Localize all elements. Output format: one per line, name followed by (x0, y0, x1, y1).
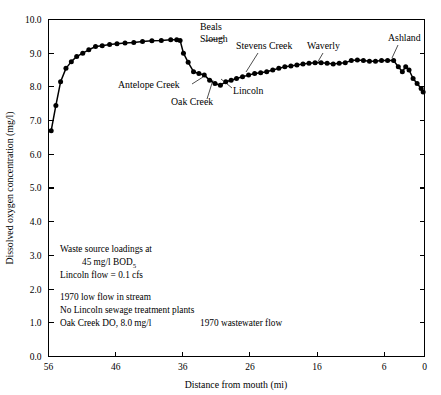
data-point-marker (361, 58, 366, 63)
data-point-marker (258, 70, 263, 75)
data-point-marker (49, 128, 54, 133)
chart-annotations: BealsSloughAntelope CreekOak CreekLincol… (118, 21, 421, 107)
data-point-marker (367, 59, 372, 64)
data-point-marker (159, 38, 164, 43)
annotation-label: Ashland (388, 32, 421, 43)
data-point-marker (294, 63, 299, 68)
y-tick-label: 5.0 (30, 183, 42, 193)
data-point-marker (63, 66, 68, 71)
data-point-marker (355, 57, 360, 62)
data-point-marker (86, 47, 91, 52)
data-point-marker (319, 60, 324, 65)
chart-canvas: 0.01.02.03.04.05.06.07.08.09.010.0 56463… (0, 0, 441, 395)
data-point-marker (114, 41, 119, 46)
note-wastewater-flow: 1970 wastewater flow (200, 318, 282, 328)
data-point-marker (282, 64, 287, 69)
annotation-label-line: Antelope Creek (118, 79, 180, 90)
y-tick-label: 3.0 (30, 251, 42, 261)
y-tick-label: 4.0 (30, 217, 42, 227)
data-point-marker (100, 43, 105, 48)
data-point-marker (107, 42, 112, 47)
data-point-marker (252, 71, 257, 76)
data-point-marker (246, 73, 251, 78)
x-axis-title: Distance from mouth (mi) (185, 379, 288, 391)
data-point-marker (93, 44, 98, 49)
annotation-label-line: Stevens Creek (236, 40, 292, 51)
y-tick-label: 7.0 (30, 116, 42, 126)
note-no-sewage-plants: No Lincoln sewage treatment plants (60, 305, 195, 315)
data-point-marker (240, 74, 245, 79)
data-point-marker (74, 54, 79, 59)
y-axis-title: Dissolved oxygen concentration (mg/l) (4, 111, 16, 264)
data-point-marker (391, 58, 396, 63)
data-point-marker (229, 78, 234, 83)
x-tick-label: 16 (312, 362, 322, 372)
data-point-marker (396, 64, 401, 69)
data-point-marker (300, 61, 305, 66)
annotation-label-line: Ashland (388, 32, 421, 43)
annotation-label: BealsSlough (200, 21, 228, 44)
x-tick-label: 36 (178, 362, 188, 372)
annotation-label: Oak Creek (171, 96, 213, 107)
x-tick-label: 6 (382, 362, 387, 372)
data-point-marker (288, 64, 293, 69)
data-point-marker (58, 79, 63, 84)
data-point-marker (415, 81, 420, 86)
y-tick-label: 0.0 (30, 352, 42, 362)
data-point-marker (313, 60, 318, 65)
dissolved-oxygen-chart-figure: 0.01.02.03.04.05.06.07.08.09.010.0 56463… (0, 0, 441, 395)
x-tick-label: 46 (111, 362, 121, 372)
y-tick-label: 9.0 (30, 49, 42, 59)
data-point-marker (407, 68, 412, 73)
annotation-label: Lincoln (233, 85, 264, 96)
data-point-marker (202, 73, 207, 78)
annotation-leader-line (192, 77, 203, 84)
note-lincoln-flow: Lincoln flow = 0.1 cfs (60, 270, 143, 280)
annotation-leader-line (392, 45, 398, 58)
data-point-marker (349, 58, 354, 63)
y-tick-label: 8.0 (30, 82, 42, 92)
data-point-marker (207, 78, 212, 83)
data-point-marker (178, 38, 183, 43)
data-point-marker (307, 61, 312, 66)
x-tick-label: 26 (245, 362, 255, 372)
data-point-marker (385, 58, 390, 63)
data-point-marker (276, 66, 281, 71)
data-point-marker (181, 51, 186, 56)
note-oak-creek-do: Oak Creek DO, 8.0 mg/l (60, 318, 152, 328)
data-point-marker (191, 69, 196, 74)
data-point-marker (337, 61, 342, 66)
annotation-label: Antelope Creek (118, 79, 180, 90)
data-point-marker (325, 61, 330, 66)
note-waste-source-loadings: Waste source loadings at (60, 244, 152, 254)
data-point-marker (264, 69, 269, 74)
data-point-marker (123, 41, 128, 46)
data-point-marker (53, 103, 58, 108)
annotation-label-line: Beals (200, 21, 222, 32)
y-tick-label: 10.0 (25, 15, 42, 25)
data-point-marker (400, 69, 405, 74)
data-point-marker (140, 39, 145, 44)
annotation-label-line: Oak Creek (171, 96, 213, 107)
data-point-marker (196, 71, 201, 76)
data-point-marker (373, 59, 378, 64)
data-point-marker (218, 83, 223, 88)
data-point-marker (379, 58, 384, 63)
data-point-marker (270, 68, 275, 73)
data-point-marker (168, 37, 173, 42)
annotation-label-line: Slough (200, 33, 228, 44)
data-point-marker (213, 81, 218, 86)
y-tick-label: 1.0 (30, 318, 42, 328)
data-point-marker (331, 61, 336, 66)
data-point-marker (343, 60, 348, 65)
data-point-marker (80, 51, 85, 56)
data-point-marker (411, 76, 416, 81)
annotation-label-line: Waverly (307, 40, 340, 51)
data-point-marker (131, 40, 136, 45)
data-point-marker (149, 38, 154, 43)
note-low-flow: 1970 low flow in stream (60, 292, 152, 302)
note-bod-line: 45 mg/l BOD5 (82, 257, 137, 269)
x-tick-label: 56 (44, 362, 54, 372)
y-tick-label: 6.0 (30, 150, 42, 160)
y-tick-label: 2.0 (30, 285, 42, 295)
